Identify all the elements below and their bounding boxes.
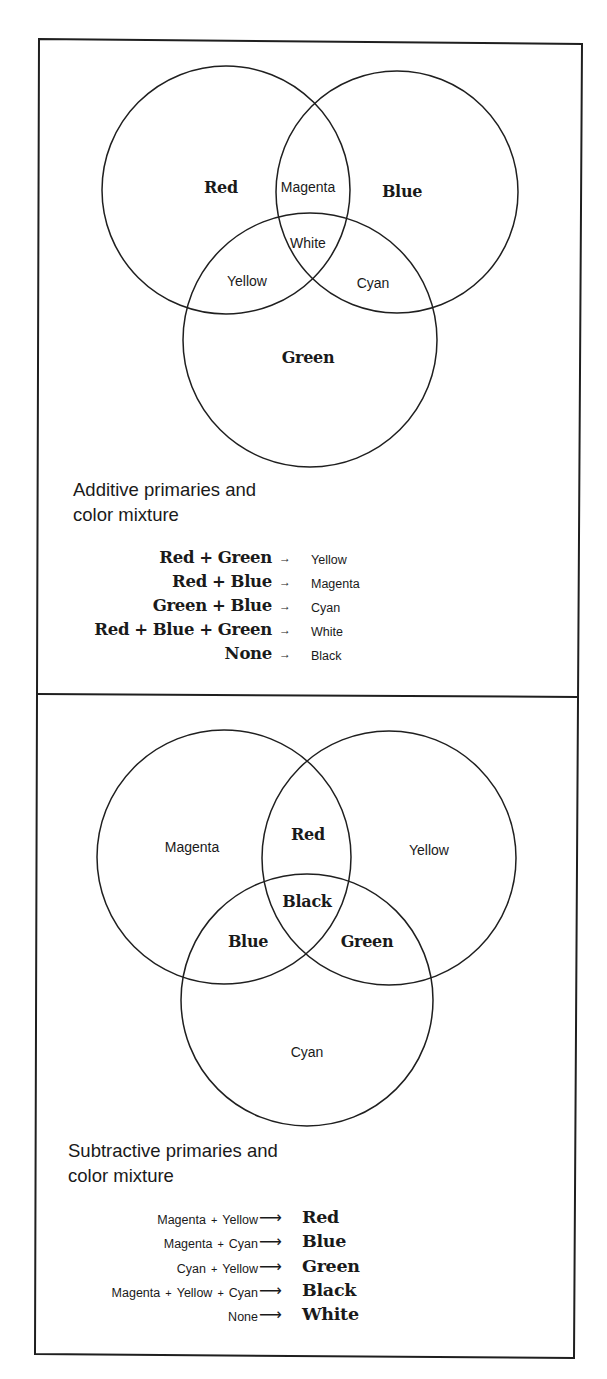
arrow-icon: → — [279, 575, 291, 589]
mixture-result: Red — [302, 1207, 339, 1227]
arrow-icon: → — [279, 647, 291, 661]
mixture-expression: Cyan+Yellow — [177, 1262, 258, 1276]
additive-caption: Additive primaries and color mixture — [73, 477, 256, 527]
mixture-result: Cyan — [311, 601, 340, 615]
subtractive-caption-line1: Subtractive primaries and — [68, 1138, 278, 1163]
mixture-expression: None — [228, 1310, 258, 1324]
mixture-expression: Red+Blue+Green — [94, 620, 272, 639]
mixture-expression: Magenta+Cyan — [164, 1237, 258, 1251]
additive-mixture-row: Red+Blue+Green → White — [0, 615, 607, 639]
subtractive-label-black: Black — [282, 894, 331, 910]
arrow-icon: ⟶ — [259, 1305, 282, 1324]
subtractive-circle-magenta — [97, 730, 351, 984]
mixture-result: Black — [302, 1280, 356, 1300]
mixture-expression: Magenta+Yellow+Cyan — [112, 1286, 258, 1300]
additive-caption-line2: color mixture — [73, 502, 256, 527]
additive-label-blue: Blue — [382, 184, 422, 200]
subtractive-mixture-row: None ⟶ White — [0, 1300, 607, 1324]
mixture-result: Green — [302, 1256, 360, 1276]
color-mixture-figure: Red Magenta Blue White Yellow Cyan Green… — [0, 0, 607, 1379]
subtractive-label-blue: Blue — [228, 934, 268, 950]
subtractive-circle-cyan — [181, 874, 433, 1126]
arrow-icon: → — [279, 599, 291, 613]
mixture-expression: Magenta+Yellow — [157, 1213, 258, 1227]
subtractive-caption-line2: color mixture — [68, 1163, 278, 1188]
subtractive-label-green: Green — [341, 934, 394, 950]
mixture-result: White — [311, 625, 343, 639]
additive-label-red: Red — [204, 180, 238, 196]
mixture-expression: Red+Green — [159, 548, 272, 567]
arrow-icon: ⟶ — [259, 1257, 282, 1276]
mixture-expression: Green+Blue — [153, 596, 272, 615]
subtractive-mixture-row: Magenta+Yellow+Cyan ⟶ Black — [0, 1276, 607, 1300]
panel-divider — [38, 694, 578, 697]
mixture-expression: None — [225, 644, 272, 663]
additive-circle-green — [183, 213, 437, 467]
additive-label-green: Green — [282, 350, 335, 366]
additive-mixture-row: Red+Green → Yellow — [0, 543, 607, 567]
mixture-result: Magenta — [311, 577, 360, 591]
subtractive-caption: Subtractive primaries and color mixture — [68, 1138, 278, 1188]
subtractive-label-cyan: Cyan — [291, 1045, 324, 1059]
subtractive-label-yellow: Yellow — [409, 843, 449, 857]
subtractive-mixture-row: Magenta+Cyan ⟶ Blue — [0, 1227, 607, 1251]
mixture-result: Black — [311, 649, 342, 663]
arrow-icon: ⟶ — [259, 1281, 282, 1300]
subtractive-label-magenta: Magenta — [165, 840, 219, 854]
arrow-icon: → — [279, 551, 291, 565]
subtractive-label-red: Red — [291, 827, 325, 843]
additive-label-cyan: Cyan — [357, 276, 390, 290]
additive-mixture-row: None → Black — [0, 639, 607, 663]
additive-label-magenta: Magenta — [281, 180, 335, 194]
additive-mixture-row: Green+Blue → Cyan — [0, 591, 607, 615]
subtractive-mixture-row: Cyan+Yellow ⟶ Green — [0, 1252, 607, 1276]
additive-label-white: White — [290, 236, 326, 250]
arrow-icon: ⟶ — [259, 1232, 282, 1251]
arrow-icon: → — [279, 623, 291, 637]
mixture-result: Blue — [302, 1231, 346, 1251]
additive-caption-line1: Additive primaries and — [73, 477, 256, 502]
mixture-result: White — [302, 1304, 359, 1324]
arrow-icon: ⟶ — [259, 1208, 282, 1227]
mixture-result: Yellow — [311, 553, 347, 567]
subtractive-mixture-row: Magenta+Yellow ⟶ Red — [0, 1203, 607, 1227]
additive-label-yellow: Yellow — [227, 274, 267, 288]
mixture-expression: Red+Blue — [172, 572, 272, 591]
additive-mixture-row: Red+Blue → Magenta — [0, 567, 607, 591]
